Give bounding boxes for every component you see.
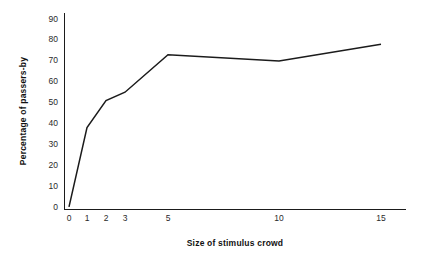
y-tick-label: 70 <box>49 55 59 65</box>
x-tick-label: 1 <box>85 213 90 223</box>
y-tick-label: 20 <box>49 160 59 170</box>
x-axis-title: Size of stimulus crowd <box>187 238 284 248</box>
x-tick-label: 5 <box>166 213 171 223</box>
x-tick-label: 10 <box>274 213 284 223</box>
line-chart: 90 80 70 60 50 40 30 20 10 0 0 1 2 3 5 1… <box>0 0 427 259</box>
y-tick-label: 60 <box>49 76 59 86</box>
y-axis-title: Percentage of passers-by <box>18 57 28 165</box>
x-tick-label: 0 <box>67 213 72 223</box>
y-tick-label: 30 <box>49 139 59 149</box>
y-tick-label: 50 <box>49 97 59 107</box>
y-tick-label: 90 <box>49 14 59 24</box>
y-tick-label: 80 <box>49 34 59 44</box>
x-tick-label: 15 <box>376 213 386 223</box>
y-tick-label: 10 <box>49 181 59 191</box>
y-tick-label: 0 <box>53 202 58 212</box>
chart-figure: 90 80 70 60 50 40 30 20 10 0 0 1 2 3 5 1… <box>0 0 427 259</box>
y-tick-label: 40 <box>49 118 59 128</box>
x-tick-label: 3 <box>123 213 128 223</box>
x-tick-label: 2 <box>104 213 109 223</box>
